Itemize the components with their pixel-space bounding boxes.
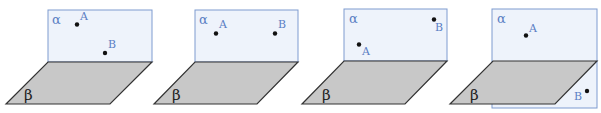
point-a-label: A bbox=[528, 22, 538, 35]
alpha-label: α bbox=[52, 12, 61, 27]
point-b-label: B bbox=[278, 18, 286, 31]
alpha-label: α bbox=[497, 11, 506, 26]
panel-2: α β A B bbox=[154, 10, 298, 104]
point-b-label: B bbox=[108, 38, 116, 51]
beta-label: β bbox=[470, 86, 479, 104]
plane-alpha bbox=[344, 9, 447, 61]
point-a bbox=[75, 22, 79, 26]
point-a-label: A bbox=[79, 10, 89, 23]
alpha-label: α bbox=[349, 11, 358, 26]
point-a-label: A bbox=[218, 18, 228, 31]
point-b bbox=[103, 51, 107, 55]
planes-diagram: α β A B α β A B α β A B α β A B bbox=[0, 0, 601, 113]
panel-4: α β A B bbox=[450, 9, 597, 108]
alpha-label: α bbox=[199, 12, 208, 27]
point-b bbox=[585, 89, 589, 93]
point-b-label: B bbox=[574, 90, 582, 103]
panel-1: α β A B bbox=[6, 10, 152, 104]
beta-label: β bbox=[24, 86, 33, 104]
panel-3: α β A B bbox=[302, 9, 447, 104]
beta-label: β bbox=[172, 86, 181, 104]
beta-label: β bbox=[322, 86, 331, 104]
point-a bbox=[357, 42, 361, 46]
plane-alpha bbox=[48, 10, 152, 62]
point-b bbox=[273, 31, 277, 35]
point-a bbox=[524, 33, 528, 37]
point-a bbox=[214, 31, 218, 35]
point-b-label: B bbox=[435, 21, 443, 34]
point-a-label: A bbox=[361, 45, 371, 58]
